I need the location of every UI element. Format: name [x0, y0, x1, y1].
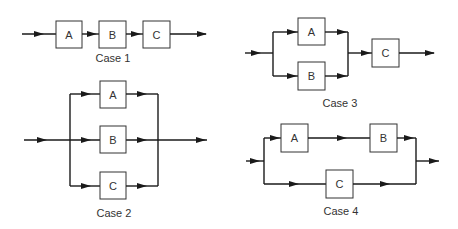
case-2-block-a-label: A — [109, 89, 117, 101]
arrow-icon — [196, 137, 206, 143]
arrow-icon — [287, 29, 297, 35]
arrow-icon — [81, 183, 91, 189]
case-4-diagram: A B C Case 4 — [246, 124, 439, 217]
case-4-caption: Case 4 — [324, 205, 359, 217]
case-2-diagram: A B C Case 2 — [24, 81, 207, 219]
arrow-icon — [250, 158, 260, 164]
case-3-block-a-label: A — [308, 26, 316, 38]
arrow-icon — [337, 73, 347, 79]
case-3-caption: Case 3 — [323, 97, 358, 109]
arrow-icon — [81, 91, 91, 97]
case-1-caption: Case 1 — [96, 52, 131, 64]
case-1-block-a-label: A — [65, 29, 73, 41]
arrow-icon — [137, 137, 147, 143]
case-4-block-b-label: B — [380, 132, 387, 144]
arrow-icon — [137, 183, 147, 189]
arrow-icon — [81, 137, 91, 143]
arrow-icon — [287, 73, 297, 79]
arrow-icon — [361, 50, 371, 56]
case-2-block-c-label: C — [109, 180, 117, 192]
arrow-icon — [34, 31, 44, 37]
case-2-block-b-label: B — [109, 134, 116, 146]
case-3-diagram: A B C Case 3 — [245, 18, 435, 109]
arrow-icon — [137, 91, 147, 97]
arrow-icon — [380, 181, 390, 187]
arrow-icon — [404, 135, 414, 141]
arrow-icon — [131, 31, 141, 37]
case-3-block-c-label: C — [382, 47, 390, 59]
reliability-block-diagrams: A B C Case 1 A B C — [0, 0, 458, 229]
arrow-icon — [87, 31, 97, 37]
case-1-diagram: A B C Case 1 — [22, 21, 207, 64]
arrow-icon — [429, 158, 439, 164]
arrow-icon — [337, 29, 347, 35]
arrow-icon — [251, 50, 261, 56]
case-1-block-c-label: C — [153, 29, 161, 41]
arrow-icon — [337, 135, 347, 141]
arrow-icon — [425, 50, 435, 56]
case-3-block-b-label: B — [308, 70, 315, 82]
arrow-icon — [270, 135, 280, 141]
arrow-icon — [197, 31, 207, 37]
case-4-block-c-label: C — [336, 178, 344, 190]
case-2-caption: Case 2 — [97, 207, 132, 219]
case-4-block-a-label: A — [291, 132, 299, 144]
arrow-icon — [37, 137, 47, 143]
case-1-block-b-label: B — [109, 29, 116, 41]
arrow-icon — [289, 181, 299, 187]
